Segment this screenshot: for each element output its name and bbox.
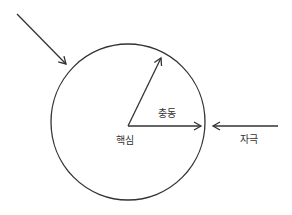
external-arrow-topleft	[17, 14, 66, 64]
core-label: 핵심	[116, 135, 134, 146]
stimulus-label: 자극	[240, 134, 258, 145]
diagram-canvas: 충동 핵심 자극	[0, 0, 292, 215]
impulse-label: 충동	[158, 108, 176, 119]
impulse-arrow-up	[128, 58, 161, 126]
boundary-circle	[51, 44, 205, 200]
